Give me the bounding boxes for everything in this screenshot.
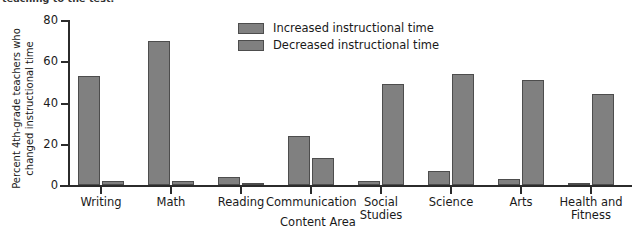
bar-chart: 80 60 40 20 0 Percent 4th-grade teachers… [0, 0, 636, 240]
bar-increased [428, 171, 450, 185]
x-axis-title: Content Area [0, 215, 636, 229]
bar-increased [358, 181, 380, 185]
y-tick-label-0: 0 [40, 180, 58, 191]
legend-item-decreased: Decreased instructional time [238, 39, 439, 51]
x-tick [240, 187, 242, 194]
legend: Increased instructional time Decreased i… [238, 22, 439, 56]
bar-decreased [102, 181, 124, 185]
x-tick [170, 187, 172, 194]
bar-decreased [382, 84, 404, 185]
bar-increased [78, 76, 100, 185]
y-axis-title: Percent 4th-grade teachers who changed i… [11, 24, 36, 194]
bar-decreased [522, 80, 544, 185]
bar-increased [288, 136, 310, 186]
legend-label-decreased: Decreased instructional time [273, 39, 439, 51]
y-tick-40 [61, 103, 69, 105]
x-axis-line [60, 185, 632, 187]
y-tick-label-80: 80 [40, 15, 58, 26]
y-tick-label-40: 40 [40, 98, 58, 109]
bar-increased [568, 183, 590, 185]
x-tick [100, 187, 102, 194]
bar-increased [148, 41, 170, 185]
bar-decreased [242, 183, 264, 185]
y-tick-20 [61, 144, 69, 146]
legend-label-increased: Increased instructional time [273, 22, 434, 34]
bar-decreased [592, 94, 614, 185]
y-tick-60 [61, 61, 69, 63]
bar-increased [218, 177, 240, 185]
x-tick [380, 187, 382, 194]
y-tick-0 [61, 185, 69, 187]
bar-increased [498, 179, 520, 185]
bar-decreased [312, 158, 334, 185]
legend-swatch-decreased [238, 40, 264, 51]
legend-item-increased: Increased instructional time [238, 22, 439, 34]
bar-decreased [452, 74, 474, 185]
y-tick-label-20: 20 [40, 139, 58, 150]
x-tick [310, 187, 312, 194]
y-tick-80 [61, 20, 69, 22]
x-tick [590, 187, 592, 194]
y-tick-label-60: 60 [40, 56, 58, 67]
legend-swatch-increased [238, 23, 264, 34]
x-tick [520, 187, 522, 194]
bar-decreased [172, 181, 194, 185]
x-tick [450, 187, 452, 194]
